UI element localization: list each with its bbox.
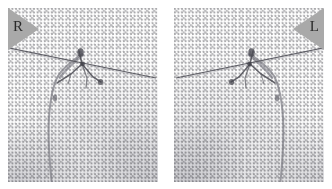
- radiograph-figure: R: [0, 0, 332, 189]
- laterality-letter-left: L: [310, 19, 319, 34]
- tissue-contour-left: [249, 54, 283, 182]
- nodule-marker-right: [53, 95, 57, 102]
- radiograph-panel-left: L: [174, 8, 324, 182]
- radiograph-panel-right: R: [8, 8, 158, 182]
- laterality-marker-left: L: [290, 8, 324, 50]
- laterality-letter-right: R: [13, 19, 23, 34]
- nodule-marker-left: [275, 95, 279, 102]
- laterality-marker-right: R: [8, 8, 42, 50]
- tissue-contour-right: [49, 54, 83, 182]
